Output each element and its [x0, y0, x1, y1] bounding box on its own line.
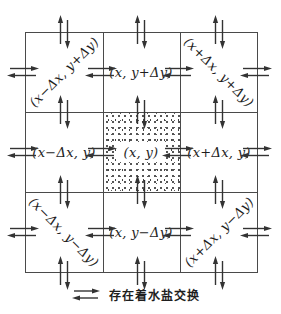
water-salt-exchange-arrows-icon — [83, 64, 121, 80]
water-salt-exchange-arrows-icon — [238, 144, 276, 160]
water-salt-exchange-arrows-icon — [211, 254, 227, 292]
legend: 存在着水盐交换 — [70, 286, 200, 303]
water-salt-exchange-arrows-icon — [56, 173, 72, 211]
water-salt-exchange-arrows-icon — [83, 224, 121, 240]
water-salt-exchange-arrows-icon — [133, 13, 149, 51]
water-salt-exchange-arrows-icon — [5, 144, 43, 160]
water-salt-exchange-arrows-icon — [56, 13, 72, 51]
water-salt-exchange-arrows-icon — [5, 224, 43, 240]
water-salt-exchange-arrows-icon — [133, 173, 149, 211]
water-salt-exchange-arrows-icon — [211, 93, 227, 131]
diagram-canvas: (x−Δx, y+Δy) (x, y+Δy) (x+Δx, y+Δy) (x−Δ… — [0, 0, 281, 314]
water-salt-exchange-arrows-icon — [160, 224, 198, 240]
water-salt-exchange-arrows-icon — [160, 144, 198, 160]
water-salt-exchange-arrows-icon — [5, 64, 43, 80]
water-salt-exchange-arrows-icon — [238, 224, 276, 240]
water-salt-exchange-arrows-icon — [211, 173, 227, 211]
legend-label: 存在着水盐交换 — [109, 286, 200, 303]
water-salt-exchange-arrows-icon — [83, 144, 121, 160]
water-salt-exchange-arrows-icon — [160, 64, 198, 80]
water-salt-exchange-arrows-icon — [211, 13, 227, 51]
exchange-arrows-layer — [0, 0, 281, 314]
water-salt-exchange-arrows-icon — [238, 64, 276, 80]
water-salt-exchange-arrows-icon — [56, 93, 72, 131]
legend-double-arrow-exchange-icon — [70, 287, 102, 302]
water-salt-exchange-arrows-icon — [133, 93, 149, 131]
